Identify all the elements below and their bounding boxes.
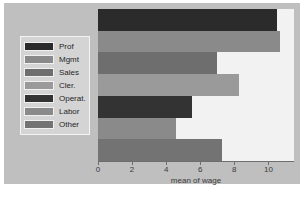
x-tick-label: 0 — [88, 165, 108, 174]
bar-cler — [98, 74, 239, 96]
bar-row — [98, 74, 294, 96]
bar-row — [98, 31, 294, 53]
chart-legend: ProfMgmtSalesCler.Operat.LaborOther — [20, 36, 90, 135]
bar-row — [98, 96, 294, 118]
legend-item-labor: Labor — [24, 105, 86, 118]
bar-operat — [98, 96, 192, 118]
legend-swatch — [24, 120, 54, 129]
legend-item-operat: Operat. — [24, 92, 86, 105]
x-axis-title: mean of wage — [98, 176, 294, 185]
legend-item-sales: Sales — [24, 66, 86, 79]
x-axis-line — [98, 161, 294, 162]
x-tick-label: 8 — [224, 165, 244, 174]
x-tick-label: 6 — [190, 165, 210, 174]
legend-swatch — [24, 81, 54, 90]
bar-prof — [98, 9, 277, 31]
legend-swatch — [24, 55, 54, 64]
bar-row — [98, 139, 294, 161]
x-tick-label: 4 — [156, 165, 176, 174]
graph-canvas: mean of wage ProfMgmtSalesCler.Operat.La… — [4, 3, 300, 184]
legend-item-prof: Prof — [24, 40, 86, 53]
legend-swatch — [24, 94, 54, 103]
legend-swatch — [24, 107, 54, 116]
legend-label: Labor — [59, 107, 79, 116]
bar-sales — [98, 52, 217, 74]
legend-swatch — [24, 68, 54, 77]
bar-row — [98, 118, 294, 140]
legend-item-other: Other — [24, 118, 86, 131]
legend-item-mgmt: Mgmt — [24, 53, 86, 66]
legend-swatch — [24, 42, 54, 51]
x-tick-label: 10 — [258, 165, 278, 174]
legend-label: Prof — [59, 42, 74, 51]
bar-mgmt — [98, 31, 280, 53]
legend-label: Other — [59, 120, 79, 129]
x-tick-label: 2 — [122, 165, 142, 174]
bar-labor — [98, 118, 176, 140]
bar-other — [98, 139, 222, 161]
plot-region — [98, 9, 294, 161]
chart-screenshot: mean of wage ProfMgmtSalesCler.Operat.La… — [0, 0, 304, 199]
bar-row — [98, 52, 294, 74]
legend-label: Cler. — [59, 81, 75, 90]
bar-row — [98, 9, 294, 31]
legend-label: Sales — [59, 68, 79, 77]
legend-item-cler: Cler. — [24, 79, 86, 92]
legend-label: Operat. — [59, 94, 86, 103]
legend-label: Mgmt — [59, 55, 79, 64]
